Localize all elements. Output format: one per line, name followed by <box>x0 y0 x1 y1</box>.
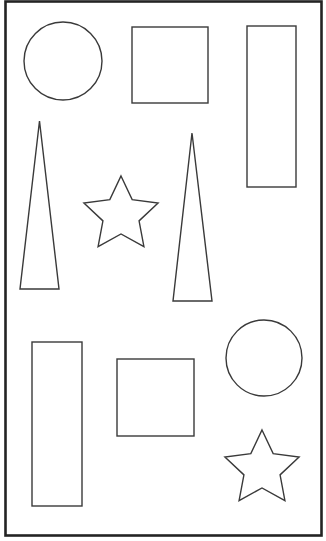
shapes-worksheet-page <box>0 0 326 541</box>
shape-canvas <box>0 0 326 541</box>
page-border-frame <box>6 2 322 536</box>
